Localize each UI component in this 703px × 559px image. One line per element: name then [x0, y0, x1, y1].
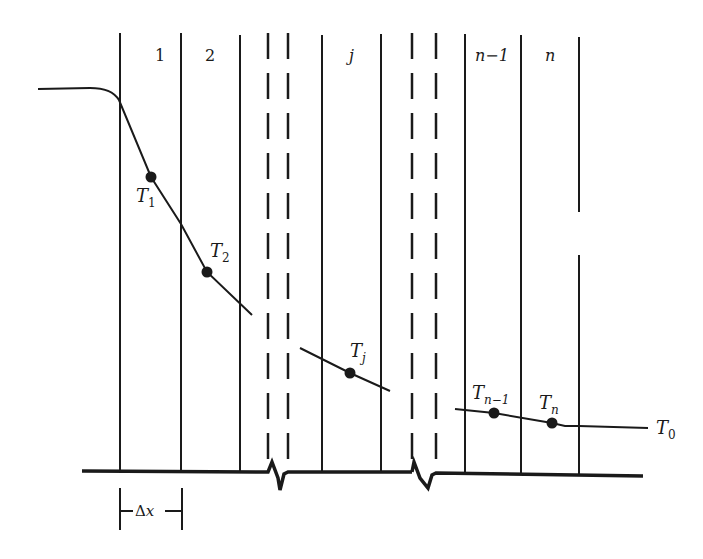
node-label-n: n — [545, 46, 555, 65]
node-label-2: 2 — [205, 46, 215, 65]
temperature-labels: T1 T2 Tj Tn−1 Tn T0 — [136, 185, 676, 442]
profile-segment-middle — [300, 348, 390, 391]
label-tn-minus-1: Tn−1 — [472, 382, 509, 407]
node-point-t2 — [202, 267, 213, 278]
node-point-tn — [547, 418, 558, 429]
node-labels: 1 2 j n−1 n — [155, 46, 555, 65]
node-boundaries — [120, 33, 579, 474]
omission-dashed-lines — [268, 33, 436, 465]
label-t0: T0 — [656, 417, 676, 442]
label-tn: Tn — [539, 392, 559, 417]
baseline — [82, 462, 643, 490]
delta-x-label: Δx — [135, 502, 155, 520]
finite-difference-diagram: 1 2 j n−1 n T1 T2 Tj Tn−1 Tn T0 Δx — [0, 0, 703, 559]
node-label-n-minus-1: n−1 — [475, 46, 509, 65]
node-point-tn1 — [489, 408, 500, 419]
nodal-points — [146, 172, 558, 429]
baseline-segment-1 — [82, 462, 412, 490]
baseline-segment-2 — [412, 462, 643, 488]
label-tj: Tj — [350, 340, 366, 365]
node-label-j: j — [346, 46, 354, 65]
node-point-t1 — [146, 172, 157, 183]
label-t2: T2 — [210, 240, 230, 265]
temperature-profile — [38, 88, 648, 428]
node-label-1: 1 — [155, 46, 165, 65]
label-t1: T1 — [136, 185, 156, 210]
node-point-tj — [345, 368, 356, 379]
